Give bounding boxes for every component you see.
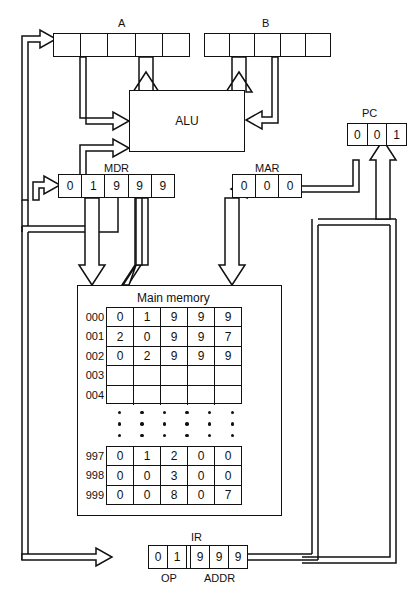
memory-cell (161, 366, 188, 384)
register-a-cell-4 (163, 34, 189, 56)
memory-grid-bottom[interactable]: 0 1 2 0 0 0 0 3 0 0 0 0 8 0 7 (106, 446, 242, 505)
alu-label: ALU (175, 114, 198, 128)
table-row (107, 386, 241, 405)
memory-address-label: 998 (78, 470, 104, 481)
memory-cell (134, 366, 161, 384)
register-b-cell-3 (281, 34, 306, 56)
dot (163, 434, 166, 437)
register-mdr-cell-3: 9 (129, 175, 152, 197)
ellipsis-column (198, 411, 221, 437)
memory-cell: 0 (134, 486, 161, 505)
register-b-cell-1 (230, 34, 255, 56)
dot (231, 422, 234, 425)
register-mdr[interactable]: 0 1 9 9 9 (58, 174, 175, 198)
dot (140, 434, 143, 437)
register-ir-op-cell-0: 0 (149, 546, 168, 568)
memory-cell: 2 (134, 347, 161, 365)
register-a-cell-1 (81, 34, 108, 56)
register-mar[interactable]: 0 0 0 (232, 174, 302, 198)
register-mdr-cell-4: 9 (152, 175, 174, 197)
register-mar-cell-2: 0 (279, 175, 301, 197)
memory-cell: 9 (161, 347, 188, 365)
pc-label: PC (362, 108, 377, 119)
dot (163, 422, 166, 425)
memory-address-label: 004 (78, 390, 104, 401)
dot (118, 411, 121, 414)
memory-address-label: 002 (78, 351, 104, 362)
memory-cell: 0 (215, 447, 241, 465)
memory-cell: 1 (134, 447, 161, 465)
main-memory-title: Main memory (137, 292, 210, 304)
register-b-cell-2 (255, 34, 280, 56)
memory-cell: 9 (188, 308, 215, 326)
table-row: 0 1 2 0 0 (107, 447, 241, 466)
memory-cell: 9 (188, 327, 215, 345)
memory-cell: 2 (107, 327, 134, 345)
dot (185, 434, 188, 437)
memory-cell: 9 (215, 347, 241, 365)
register-mar-cell-1: 0 (256, 175, 279, 197)
dot (208, 411, 211, 414)
memory-cell: 0 (107, 308, 134, 326)
register-mar-cell-0: 0 (233, 175, 256, 197)
dot (208, 434, 211, 437)
memory-cell: 9 (215, 308, 241, 326)
memory-cell: 0 (107, 447, 134, 465)
table-row: 0 0 8 0 7 (107, 486, 241, 505)
memory-cell: 3 (161, 466, 188, 484)
register-pc[interactable]: 0 0 1 (347, 123, 407, 146)
ellipsis-column (131, 411, 154, 437)
register-b[interactable] (204, 33, 331, 57)
memory-cell: 0 (107, 347, 134, 365)
dot (185, 411, 188, 414)
dot (140, 422, 143, 425)
memory-grid-top[interactable]: 0 1 9 9 9 2 0 9 9 7 0 2 9 9 9 (106, 307, 242, 404)
dot (140, 411, 143, 414)
mar-label: MAR (255, 163, 279, 174)
diagram-canvas: .w{fill:none;stroke:#111;stroke-width:1.… (0, 0, 415, 605)
register-pc-cell-0: 0 (348, 124, 368, 145)
register-ir-op-cell-1: 1 (168, 546, 187, 568)
register-a-cell-3 (136, 34, 163, 56)
ellipsis-column (221, 411, 244, 437)
register-pc-cell-1: 0 (368, 124, 388, 145)
register-ir[interactable]: 0 1 9 9 9 (148, 545, 248, 569)
ellipsis-column (108, 411, 131, 437)
memory-cell: 0 (188, 466, 215, 484)
dot (231, 411, 234, 414)
table-row: 0 1 9 9 9 (107, 308, 241, 327)
memory-cell (107, 366, 134, 384)
dot (163, 411, 166, 414)
alu-box[interactable]: ALU (129, 90, 245, 152)
memory-cell: 9 (188, 347, 215, 365)
memory-cell (215, 366, 241, 384)
memory-cell (188, 366, 215, 384)
register-a-cell-2 (108, 34, 135, 56)
register-a[interactable] (53, 33, 190, 57)
memory-cell (188, 386, 215, 405)
memory-address-label: 000 (78, 312, 104, 323)
dot (118, 422, 121, 425)
memory-cell: 0 (188, 447, 215, 465)
register-b-cell-4 (306, 34, 330, 56)
register-a-cell-0 (54, 34, 81, 56)
dot (231, 434, 234, 437)
memory-cell: 0 (134, 327, 161, 345)
memory-cell (215, 386, 241, 405)
memory-cell: 9 (161, 327, 188, 345)
memory-cell: 8 (161, 486, 188, 505)
register-pc-cell-2: 1 (387, 124, 406, 145)
memory-cell: 7 (215, 486, 241, 505)
register-b-cell-0 (205, 34, 230, 56)
register-mdr-cell-2: 9 (105, 175, 128, 197)
table-row: 0 0 3 0 0 (107, 466, 241, 485)
memory-address-label: 001 (78, 331, 104, 342)
table-row: 2 0 9 9 7 (107, 327, 241, 346)
ir-label: IR (191, 532, 202, 543)
memory-cell: 1 (134, 308, 161, 326)
memory-address-label: 003 (78, 370, 104, 381)
memory-cell: 0 (215, 466, 241, 484)
memory-cell (107, 386, 134, 405)
register-a-label: A (118, 18, 125, 29)
register-ir-addr-cell-2: 9 (229, 546, 247, 568)
